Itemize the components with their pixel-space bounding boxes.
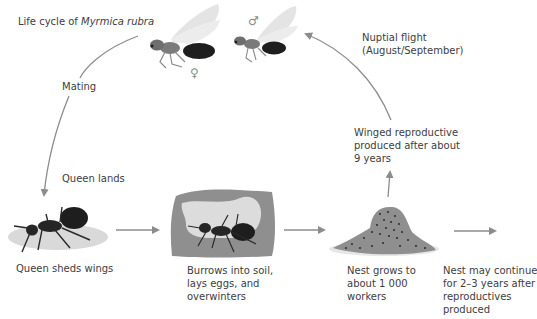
stage-text-line: Burrows into soil, <box>187 264 273 277</box>
diagram-title: Life cycle of Myrmica rubra <box>18 15 154 28</box>
winged-line3: 9 years <box>354 152 460 165</box>
queen-lands-label: Queen lands <box>62 172 125 185</box>
stage-text-line: produced <box>443 303 537 316</box>
winged-line1: Winged reproductive <box>354 126 460 139</box>
stage-burrows: Burrows into soil, lays eggs, and overwi… <box>187 264 273 303</box>
nuptial-flight-line1: Nuptial flight <box>362 31 463 44</box>
stage-text-line: workers <box>347 290 416 303</box>
stage-text-line: reproductives <box>443 290 537 303</box>
winged-reproductive-label: Winged reproductive produced after about… <box>354 126 460 165</box>
stage-text-line: overwinters <box>187 290 273 303</box>
burrow-chamber <box>171 190 275 258</box>
nuptial-flight-label: Nuptial flight (August/September) <box>362 31 463 57</box>
title-prefix: Life cycle of <box>18 16 81 27</box>
female-symbol: ♀ <box>190 66 199 80</box>
stage-nest-continues: Nest may continue for 2–3 years after re… <box>443 264 537 316</box>
stage-text-line: about 1 000 <box>347 277 416 290</box>
stage-text-line: Nest may continue <box>443 264 537 277</box>
nest-mound <box>329 207 439 256</box>
nuptial-flight-line2: (August/September) <box>362 44 463 57</box>
stage-text-line: lays eggs, and <box>187 277 273 290</box>
winged-arrow <box>388 172 390 197</box>
male-symbol: ♂ <box>248 14 259 28</box>
winged-line2: produced after about <box>354 139 460 152</box>
stage-nest-grows: Nest grows to about 1 000 workers <box>347 264 416 303</box>
stage-queen-sheds-wings: Queen sheds wings <box>16 262 113 275</box>
stage-text-line: Queen sheds wings <box>16 262 113 275</box>
winged-female-ant <box>150 4 220 68</box>
mating-label: Mating <box>62 80 96 93</box>
stage-text-line: Nest grows to <box>347 264 416 277</box>
queen-on-ground <box>8 207 108 252</box>
title-species: Myrmica rubra <box>81 16 154 27</box>
stage-text-line: for 2–3 years after <box>443 277 537 290</box>
winged-male-ant <box>234 6 298 62</box>
